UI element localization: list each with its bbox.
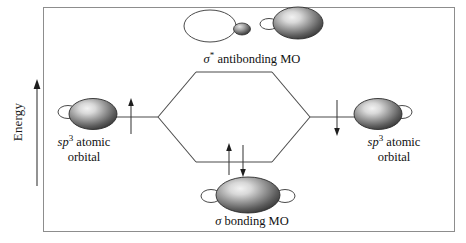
bonding-mo-caption: σ bonding MO [152,214,352,229]
right-atomic-orbital-caption: sp3 atomic orbital [338,133,450,165]
molecular-orbital-diagram-figure: Energy [0,0,466,243]
bonding-caption-text: bonding MO [221,214,288,228]
right-atomic-word: atomic [383,135,420,149]
left-atomic-orbital-caption: sp3 atomic orbital [28,133,140,165]
antibonding-mo-caption: σ* antibonding MO [152,50,352,67]
energy-axis-label: Energy [10,82,26,162]
right-orbital-word: orbital [378,150,411,164]
diagram-frame [43,7,455,232]
left-atomic-word: atomic [73,135,110,149]
antibonding-caption-text: antibonding MO [214,52,300,66]
left-orbital-word: orbital [68,150,101,164]
left-sp-italic: sp [58,135,69,149]
right-sp-italic: sp [368,135,379,149]
